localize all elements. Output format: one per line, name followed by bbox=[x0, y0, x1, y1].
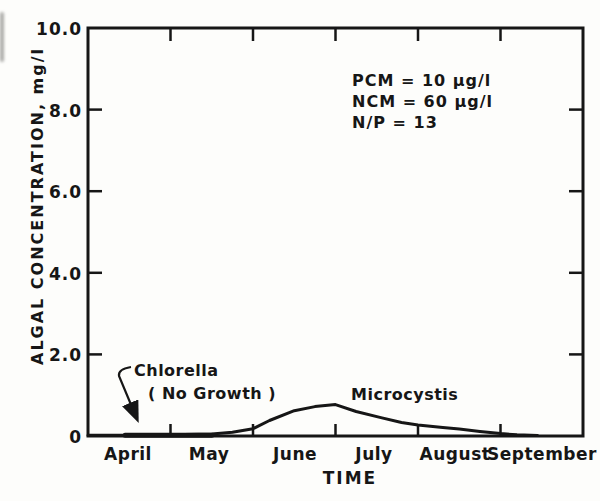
chlorella-label: Chlorella bbox=[134, 361, 219, 380]
chlorella-no-growth-label: ( No Growth ) bbox=[148, 384, 276, 403]
y-tick-label: 10.0 bbox=[24, 19, 82, 39]
x-tick-label-may: May bbox=[189, 444, 229, 464]
algal-concentration-chart: 10.0 8.0 6.0 4.0 2.0 0 April May June Ju… bbox=[0, 0, 600, 501]
annotation-ncm: NCM = 60 µg/l bbox=[352, 91, 493, 112]
series-lines bbox=[88, 405, 538, 436]
x-tick-label-april: April bbox=[104, 444, 152, 464]
x-tick-label-september: September bbox=[487, 444, 597, 464]
series-line-microcystis bbox=[88, 405, 538, 436]
y-axis-title: ALGAL CONCENTRATION, mg/l bbox=[28, 47, 47, 365]
microcystis-label: Microcystis bbox=[351, 385, 458, 404]
plot-area bbox=[0, 0, 600, 501]
x-tick-label-june: June bbox=[273, 444, 317, 464]
annotation-np: N/P = 13 bbox=[352, 112, 438, 133]
x-tick-label-august: August bbox=[420, 444, 491, 464]
y-tick-label: 0 bbox=[24, 427, 82, 447]
x-axis-title: TIME bbox=[323, 468, 377, 488]
x-tick-label-july: July bbox=[355, 444, 392, 464]
annotation-pcm: PCM = 10 µg/l bbox=[352, 70, 491, 91]
